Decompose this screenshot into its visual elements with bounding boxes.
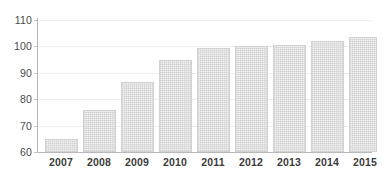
- xtick-label-2015: 2015: [342, 157, 385, 168]
- bar-2015: [349, 37, 377, 152]
- bar-2010: [159, 60, 192, 152]
- bar-2009: [121, 82, 154, 152]
- bar-2011: [197, 48, 230, 152]
- bar-chart: 110 100 90 80 70 60 2007 2008 2009 2010 …: [0, 0, 385, 181]
- bar-2012: [235, 46, 268, 152]
- bars-layer: [0, 0, 385, 181]
- bar-2013: [273, 45, 306, 152]
- bar-2008: [83, 110, 116, 152]
- bar-2007: [45, 139, 78, 152]
- bar-2014: [311, 41, 344, 152]
